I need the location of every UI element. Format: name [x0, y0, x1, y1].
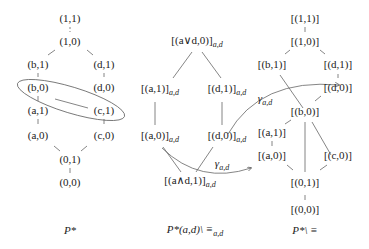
node-d-0: (d,0): [93, 82, 114, 93]
node-1-0: [(1,0)]: [291, 36, 319, 47]
node-a-0: [(a,0)]a,d: [141, 130, 179, 144]
node-0-0: (0,0): [59, 177, 80, 188]
gamma-label-upper: γa,d: [258, 93, 272, 107]
node-a-1: (a,1): [28, 105, 48, 116]
node-0-0: [(0,0)]: [291, 204, 319, 215]
node-1-1: [(1,1)]: [291, 13, 319, 24]
gamma-label-lower: γa,d: [215, 158, 229, 172]
node-c-1: (c,1): [94, 105, 114, 116]
node-a-0: [(a,0)]: [258, 150, 286, 161]
node-d-1: [(d,1)]: [324, 59, 352, 70]
node-b-1: [(b,1)]: [258, 59, 286, 70]
node-a-1: [(a,1)]: [258, 127, 286, 138]
node-d-0: [(d,0)]a,d: [208, 130, 246, 144]
node-b-0: [(b,0)]: [291, 106, 319, 117]
node-a-0: (a,0): [28, 130, 48, 141]
node-c-0: (c,0): [94, 130, 114, 141]
node-d-0: [(d,0)]: [324, 82, 352, 93]
caption-p-star: P*: [64, 224, 76, 236]
node-0-1: [(0,1)]: [291, 177, 319, 188]
node-1-1: (1,1): [59, 13, 80, 24]
node-d-1: [(d,1)]a,d: [208, 83, 246, 97]
node-bottom: [(a∧d,1)]a,d: [164, 175, 215, 189]
node-d-1: (d,1): [93, 59, 114, 70]
caption-quotient: P*\ ≡: [292, 224, 317, 236]
node-0-1: (0,1): [59, 154, 80, 165]
caption-quotient-ad: P*(a,d)\ ≡a,d: [167, 223, 224, 238]
node-c-0: [(c,0)]: [324, 150, 352, 161]
node-a-1: [(a,1)]a,d: [141, 83, 179, 97]
node-b-1: (b,1): [27, 59, 48, 70]
node-1-0: (1,0): [59, 36, 80, 47]
node-top: [(a∨d,0)]a,d: [171, 35, 222, 49]
node-b-0: (b,0): [27, 82, 48, 93]
